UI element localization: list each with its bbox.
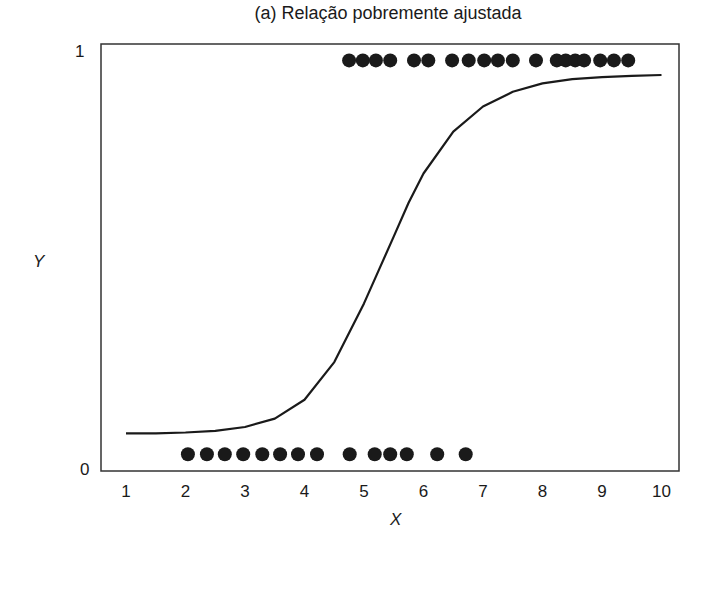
data-point [342, 53, 356, 67]
data-point [273, 447, 287, 461]
data-point [421, 53, 435, 67]
y-tick-1: 1 [75, 42, 84, 62]
x-axis-ticks: 12345678910 [121, 482, 671, 501]
fitted-curve [126, 75, 662, 433]
x-tick-label: 8 [538, 482, 547, 501]
data-point [236, 447, 250, 461]
data-point [383, 447, 397, 461]
data-point [343, 447, 357, 461]
data-point [445, 53, 459, 67]
y-axis-label: Y [33, 252, 44, 272]
data-points [181, 53, 635, 461]
data-point [459, 447, 473, 461]
x-tick-label: 10 [652, 482, 671, 501]
x-tick-label: 5 [359, 482, 368, 501]
data-point [400, 447, 414, 461]
data-point [607, 53, 621, 67]
data-point [529, 53, 543, 67]
data-point [255, 447, 269, 461]
data-point [593, 53, 607, 67]
y-tick-0: 0 [80, 460, 89, 480]
data-point [621, 53, 635, 67]
x-axis-label: X [390, 510, 401, 530]
data-point [383, 53, 397, 67]
data-point [181, 447, 195, 461]
plot-frame [101, 44, 679, 471]
x-tick-label: 6 [419, 482, 428, 501]
x-tick-label: 7 [478, 482, 487, 501]
logistic-curve-line [126, 75, 662, 433]
x-tick-label: 3 [240, 482, 249, 501]
data-point [310, 447, 324, 461]
data-point [462, 53, 476, 67]
data-point [291, 447, 305, 461]
x-tick-label: 4 [300, 482, 309, 501]
data-point [491, 53, 505, 67]
data-point [218, 447, 232, 461]
data-point [430, 447, 444, 461]
x-tick-label: 2 [181, 482, 190, 501]
x-tick-label: 1 [121, 482, 130, 501]
plot-area: 12345678910 [0, 0, 726, 590]
data-point [477, 53, 491, 67]
data-point [356, 53, 370, 67]
data-point [506, 53, 520, 67]
x-tick-label: 9 [597, 482, 606, 501]
data-point [577, 53, 591, 67]
data-point [368, 447, 382, 461]
data-point [200, 447, 214, 461]
data-point [369, 53, 383, 67]
data-point [407, 53, 421, 67]
